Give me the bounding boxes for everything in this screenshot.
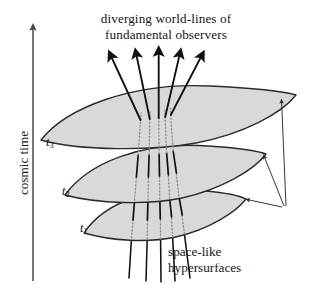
cosmic-time-hypersurface-diagram: diverging world-lines of fundamental obs… [0, 0, 312, 292]
hypersurfaces-caption: space-like hypersurfaces [168, 244, 286, 275]
leader-line-to-t1 [247, 200, 282, 208]
hypersurface-t2 [65, 145, 266, 202]
time-slice-label-t2: t2 [62, 184, 70, 199]
cosmic-time-axis-label: cosmic time [16, 103, 32, 223]
time-slice-label-t2-sub: 2 [65, 190, 69, 199]
leader-line-to-t3 [282, 101, 287, 207]
leader-line-to-t2 [264, 156, 284, 206]
worldlines-caption-line1: diverging world-lines of [84, 11, 248, 27]
hypersurfaces-caption-line2: hypersurfaces [168, 260, 286, 276]
worldlines-caption-line2: fundamental observers [84, 27, 248, 43]
time-slice-label-t1-sub: 1 [83, 227, 87, 236]
worldlines-caption: diverging world-lines of fundamental obs… [84, 11, 248, 42]
time-slice-label-t1: t1 [80, 221, 88, 236]
hypersurface-t3 [41, 86, 296, 149]
time-slice-label-t3: t3 [46, 135, 54, 150]
hypersurfaces-caption-line1: space-like [168, 244, 286, 260]
time-slice-label-t3-sub: 3 [49, 141, 53, 150]
